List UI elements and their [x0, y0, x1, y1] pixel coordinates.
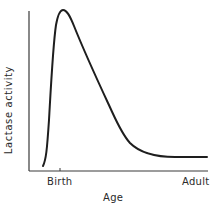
- x-axis-label: Age: [103, 192, 123, 203]
- birth-label: Birth: [47, 176, 73, 187]
- lactase-curve: [43, 10, 207, 166]
- y-axis-label: Lactase activity: [1, 60, 15, 160]
- adult-label: Adult: [182, 176, 210, 187]
- chart-canvas: [0, 0, 217, 205]
- y-axis-label-text: Lactase activity: [3, 66, 14, 154]
